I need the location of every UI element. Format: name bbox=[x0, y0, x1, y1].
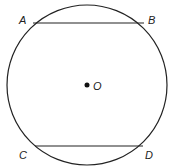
center-point bbox=[85, 83, 90, 88]
label-c: C bbox=[19, 149, 27, 161]
label-b: B bbox=[148, 14, 155, 26]
circle-diagram: O A B C D bbox=[0, 0, 173, 168]
label-o: O bbox=[93, 80, 102, 92]
label-a: A bbox=[18, 14, 26, 26]
label-d: D bbox=[145, 149, 153, 161]
